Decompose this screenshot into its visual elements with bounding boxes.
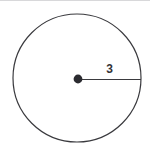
center-dot xyxy=(74,75,83,84)
circle-radius-diagram: 3 xyxy=(0,0,150,151)
radius-length-label: 3 xyxy=(101,62,118,76)
diagram-canvas xyxy=(0,0,150,151)
